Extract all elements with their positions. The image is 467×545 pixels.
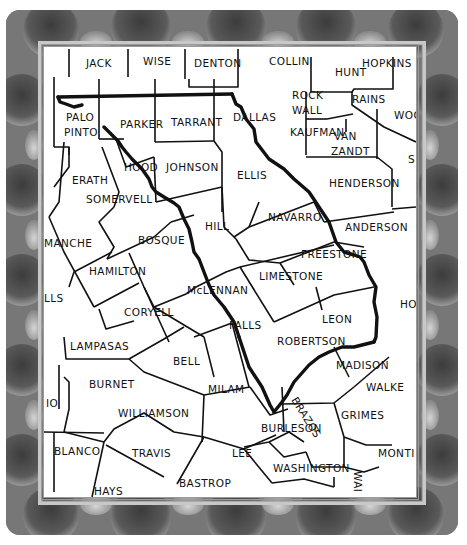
county-label-travis: TRAVIS [131,447,171,459]
county-label-hamilton: HAMILTON [89,265,146,277]
county-label-bosque: BOSQUE [138,234,185,246]
county-label-coryell: CORYELL [124,306,174,318]
county-label-dallas: DALLAS [233,111,276,123]
county-label-falls: FALLS [229,319,262,331]
map-panel: JACK WISE DENTON COLLIN HUNT HOPKINS ROC… [44,47,416,497]
county-label-walker: WALKE [366,381,404,393]
county-label-bell: BELL [173,355,200,367]
county-label-henderson: HENDERSON [329,177,400,189]
county-label-jack: JACK [85,57,112,69]
county-label-milam: MILAM [208,383,245,395]
county-label-collin: COLLIN [269,55,310,67]
county-label-van-zandt-1: VAN [334,130,357,142]
county-label-limestone: LIMESTONE [259,270,323,282]
county-label-robertson: ROBERTSON [277,335,346,347]
county-label-rockwall-1: ROCK [292,89,324,101]
county-label-freestone: FREESTONE [301,248,367,260]
county-label-grimes: GRIMES [341,409,384,421]
county-label-blanco: BLANCO [54,445,100,457]
county-label-washington: WASHINGTON [273,462,350,474]
county-label-wise: WISE [143,55,171,67]
county-label-leon: LEON [322,313,352,325]
county-label-smith: S [408,153,415,165]
county-label-wood: WOC [394,109,416,121]
county-label-hopkins: HOPKINS [362,57,412,69]
county-label-van-zandt-2: ZANDT [331,145,370,157]
county-label-lampasas: LAMPASAS [70,340,129,352]
county-label-san-saba: IO [46,397,58,409]
county-label-erath: ERATH [72,174,108,186]
county-label-montgomery: MONTI [378,447,415,459]
county-label-tarrant: TARRANT [170,116,222,128]
county-label-williamson: WILLIAMSON [118,407,189,419]
county-map: JACK WISE DENTON COLLIN HUNT HOPKINS ROC… [44,47,416,497]
county-label-palo-pinto-1: PALO [66,111,94,123]
county-label-bastrop: BASTROP [179,477,231,489]
county-label-rains: RAINS [352,93,386,105]
county-label-mills: LLS [44,292,64,304]
county-label-lee: LEE [232,447,252,459]
county-label-anderson: ANDERSON [345,221,408,233]
county-label-burnet: BURNET [89,378,135,390]
county-label-hood: HOOD [124,161,158,173]
county-labels: JACK WISE DENTON COLLIN HUNT HOPKINS ROC… [44,55,416,497]
county-label-hays: HAYS [94,485,123,497]
county-label-parker: PARKER [120,118,163,130]
county-label-denton: DENTON [194,57,242,69]
county-label-palo-pinto-2: PINTO [64,126,98,138]
county-label-waller: WAI [352,471,364,492]
county-label-ellis: ELLIS [237,169,267,181]
county-label-mclennan: McLENNAN [187,284,248,296]
county-label-somervell: SOMERVELL [86,193,152,205]
county-label-hill: HILL [205,220,229,232]
county-label-johnson: JOHNSON [165,161,219,173]
county-label-madison: MADISON [336,359,389,371]
county-label-comanche: MANCHE [44,237,92,249]
county-label-houston: HO [400,298,416,310]
county-label-rockwall-2: WALL [292,104,322,116]
county-label-navarro: NAVARRO [268,211,322,223]
